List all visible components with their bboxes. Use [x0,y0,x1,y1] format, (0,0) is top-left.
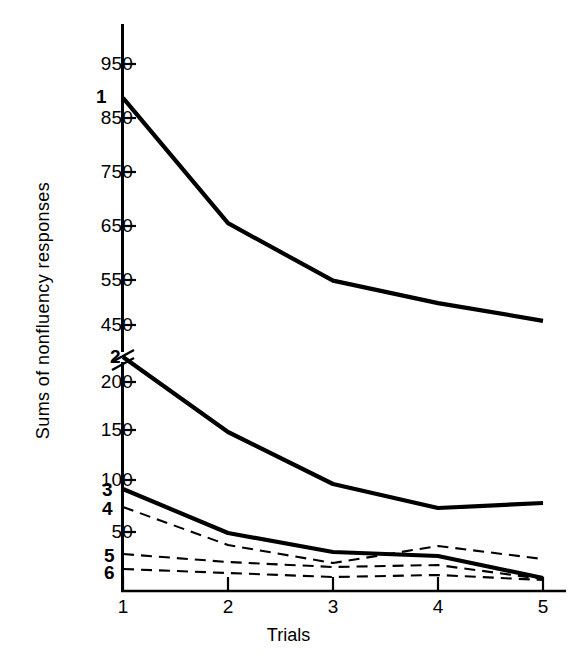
y-tick-label: 750 [101,161,133,183]
data-series-layer [123,98,543,580]
x-axis-title: Trials [0,625,577,646]
figure-container: 950 850 750 650 550 450 200 150 100 50 1… [0,0,577,659]
x-tick-label: 2 [215,596,241,618]
y-tick-label: 450 [101,314,133,336]
series-line-1 [123,98,543,321]
y-tick-label: 850 [101,107,133,129]
x-tick-marks [123,577,543,591]
line-chart-plot [0,0,577,659]
y-axis-title: Sums of nonfluency responses [33,111,54,511]
series-label-4: 4 [102,498,113,520]
y-tick-label: 150 [101,419,133,441]
series-label-6: 6 [104,562,115,584]
x-tick-label: 1 [110,596,136,618]
y-tick-label: 50 [111,521,133,543]
y-tick-label: 950 [101,53,133,75]
series-label-1: 1 [96,86,107,108]
x-tick-label: 3 [320,596,346,618]
y-tick-label: 200 [101,371,133,393]
x-tick-label: 5 [530,596,556,618]
series-line-2 [123,357,543,508]
y-tick-label: 650 [101,215,133,237]
x-tick-label: 4 [425,596,451,618]
series-label-2: 2 [110,346,121,368]
series-line-3 [123,489,543,578]
y-tick-label: 550 [101,269,133,291]
